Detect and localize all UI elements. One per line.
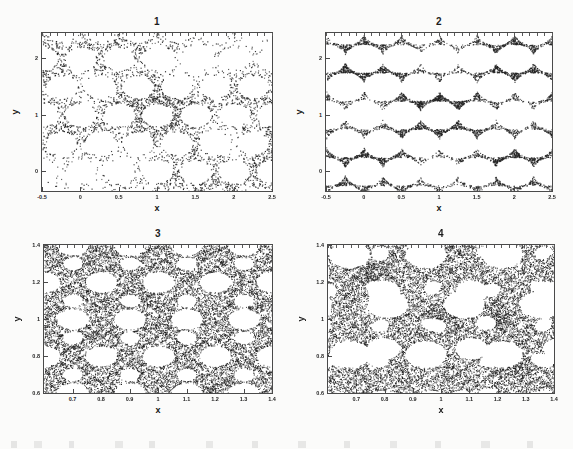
x-minor-tick <box>142 33 143 36</box>
x-minor-tick <box>134 33 135 36</box>
y-tick-mark <box>326 58 330 59</box>
x-minor-tick <box>403 245 404 248</box>
x-minor-tick <box>529 33 530 36</box>
x-minor-tick <box>204 245 205 248</box>
x-minor-tick <box>479 245 480 248</box>
x-minor-tick <box>546 245 547 248</box>
x-minor-tick <box>552 33 553 36</box>
x-minor-tick <box>272 245 273 248</box>
x-minor-tick <box>120 245 121 248</box>
x-minor-tick <box>74 245 75 248</box>
x-tick-mark <box>326 187 327 191</box>
x-minor-tick <box>67 245 68 248</box>
x-minor-tick <box>103 33 104 36</box>
x-tick-label: 1.5 <box>192 194 200 200</box>
x-minor-tick <box>52 245 53 248</box>
plot-title-2: 2 <box>325 16 553 27</box>
y-tick-mark <box>42 115 46 116</box>
x-tick-mark <box>498 389 499 393</box>
x-tick-label: 0.8 <box>97 396 105 402</box>
x-tick-label: 0 <box>79 194 82 200</box>
x-minor-tick <box>537 33 538 36</box>
x-minor-tick <box>105 245 106 248</box>
x-tick-label: 2.5 <box>548 194 556 200</box>
x-minor-tick <box>157 33 158 36</box>
x-minor-tick <box>234 245 235 248</box>
x-tick-label: -0.5 <box>321 194 330 200</box>
x-tick-label: 1.4 <box>550 396 558 402</box>
x-minor-tick <box>264 33 265 36</box>
x-tick-mark <box>80 187 81 191</box>
x-tick-label: 0.5 <box>398 194 406 200</box>
x-tick-mark <box>552 187 553 191</box>
x-minor-tick <box>394 33 395 36</box>
scatter-canvas-2 <box>326 33 552 191</box>
x-tick-mark <box>272 389 273 393</box>
x-minor-tick <box>507 33 508 36</box>
x-minor-tick <box>326 33 327 36</box>
x-minor-tick <box>97 245 98 248</box>
x-tick-mark <box>364 187 365 191</box>
x-minor-tick <box>426 245 427 248</box>
x-minor-tick <box>366 245 367 248</box>
x-minor-tick <box>381 245 382 248</box>
x-minor-tick <box>409 33 410 36</box>
x-minor-tick <box>501 245 502 248</box>
x-minor-tick <box>226 245 227 248</box>
x-minor-tick <box>211 245 212 248</box>
x-tick-mark <box>413 389 414 393</box>
x-tick-mark <box>441 389 442 393</box>
x-minor-tick <box>544 33 545 36</box>
x-tick-label: 1 <box>439 396 442 402</box>
x-tick-label: 1 <box>437 194 440 200</box>
x-tick-label: 2.5 <box>268 194 276 200</box>
x-tick-mark <box>234 187 235 191</box>
x-minor-tick <box>257 33 258 36</box>
x-tick-label: 2 <box>232 194 235 200</box>
x-minor-tick <box>96 33 97 36</box>
y-tick-mark <box>326 171 330 172</box>
x-tick-mark <box>101 389 102 393</box>
x-minor-tick <box>80 33 81 36</box>
x-minor-tick <box>343 245 344 248</box>
x-tick-mark <box>514 187 515 191</box>
y-tick-label: 0.6 <box>27 390 40 396</box>
x-minor-tick <box>203 33 204 36</box>
x-minor-tick <box>165 33 166 36</box>
y-axis-label-3: y <box>12 316 22 321</box>
scan-artifact-bottom <box>0 441 573 448</box>
x-minor-tick <box>516 245 517 248</box>
y-tick-label: 1.4 <box>27 242 40 248</box>
x-minor-tick <box>396 245 397 248</box>
scatter-canvas-4 <box>328 245 554 393</box>
x-minor-tick <box>418 245 419 248</box>
x-minor-tick <box>462 33 463 36</box>
x-tick-mark <box>244 389 245 393</box>
plot-frame-3 <box>43 244 273 394</box>
y-tick-mark <box>328 282 332 283</box>
x-minor-tick <box>449 245 450 248</box>
x-tick-mark <box>469 389 470 393</box>
x-axis-label-4: x <box>438 405 443 415</box>
x-minor-tick <box>341 33 342 36</box>
x-tick-mark <box>356 389 357 393</box>
y-axis-label-2: y <box>294 109 304 114</box>
x-minor-tick <box>149 33 150 36</box>
x-tick-label: -0.5 <box>37 194 46 200</box>
x-minor-tick <box>172 33 173 36</box>
x-minor-tick <box>219 245 220 248</box>
x-tick-label: 1.2 <box>211 396 219 402</box>
x-minor-tick <box>218 33 219 36</box>
x-tick-mark <box>477 187 478 191</box>
plot-panel-3: 3 x y 0.70.80.911.11.21.31.40.60.811.21.… <box>8 222 290 428</box>
x-axis-label-3: x <box>155 405 160 415</box>
x-minor-tick <box>401 33 402 36</box>
x-minor-tick <box>373 245 374 248</box>
x-tick-mark <box>42 187 43 191</box>
plot-frame-1 <box>41 32 273 192</box>
x-tick-mark <box>158 389 159 393</box>
x-minor-tick <box>356 33 357 36</box>
y-tick-label: 0.8 <box>27 353 40 359</box>
x-tick-label: 0.7 <box>352 396 360 402</box>
x-minor-tick <box>249 245 250 248</box>
